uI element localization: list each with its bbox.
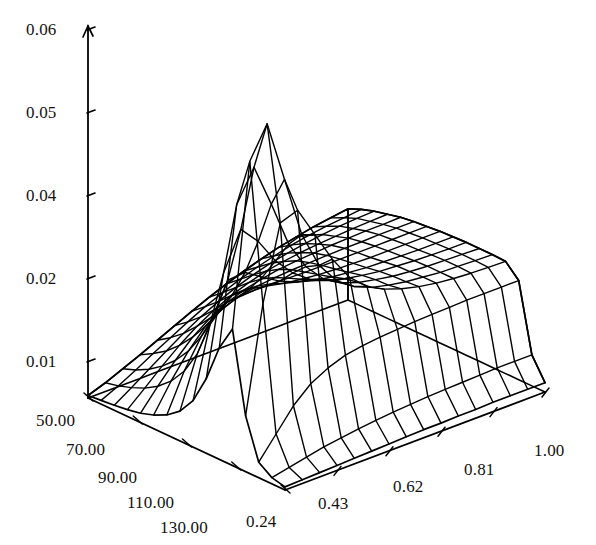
mesh-row-0 <box>285 383 545 487</box>
y-axis-tick-label-4: 130.00 <box>160 518 208 538</box>
mesh-col-3 <box>140 179 337 465</box>
surface-plot-figure: 0.060.050.040.020.01 50.0070.0090.00110.… <box>0 0 596 545</box>
surface-mesh-group <box>88 124 545 487</box>
x-axis-tick-label-3: 0.81 <box>464 460 495 480</box>
z-axis-tick-label-1: 0.05 <box>26 103 57 123</box>
x-axis-tick-label-0: 0.24 <box>246 512 277 532</box>
x-axis-tick-label-4: 1.00 <box>534 441 565 461</box>
y-axis-tick-label-0: 50.00 <box>36 411 75 431</box>
y-axis-tick-label-3: 110.00 <box>127 493 174 513</box>
x-axis-line <box>285 392 545 490</box>
x-axis-tick-label-2: 0.62 <box>393 477 424 497</box>
z-axis-tick-label-3: 0.02 <box>26 269 57 289</box>
x-axis-tick-label-1: 0.43 <box>318 494 349 514</box>
z-axis-tick-label-2: 0.04 <box>26 186 57 206</box>
z-axis-tick-label-4: 0.01 <box>26 352 57 372</box>
z-axis-tick-label-0: 0.06 <box>26 20 57 40</box>
mesh-col-7 <box>209 278 406 437</box>
y-axis-tick-label-1: 70.00 <box>66 440 105 460</box>
mesh-col-5 <box>175 259 372 451</box>
surface-wireframe-canvas <box>0 0 596 545</box>
mesh-col-14 <box>331 218 528 389</box>
mesh-col-2 <box>123 124 320 473</box>
y-axis-tick-label-2: 90.00 <box>98 468 137 488</box>
